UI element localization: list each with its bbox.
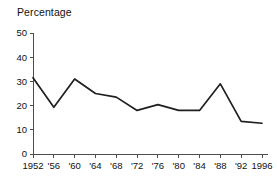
- x-tick-label: '80: [173, 160, 185, 171]
- y-tick-label: 20: [16, 100, 27, 111]
- y-tick-label: 10: [16, 124, 27, 135]
- x-tick-label: '84: [193, 160, 205, 171]
- x-tick-label: 1996: [251, 160, 272, 171]
- y-tick-label: 50: [16, 27, 27, 38]
- y-tick-label: 30: [16, 76, 27, 87]
- x-tick-label: '92: [235, 160, 247, 171]
- x-tick-label: '60: [68, 160, 80, 171]
- x-tick-label: '88: [214, 160, 226, 171]
- data-series-group: [33, 78, 262, 124]
- y-axis: 01020304050: [16, 27, 33, 159]
- x-tick-label: '76: [152, 160, 164, 171]
- y-tick-label: 40: [16, 52, 27, 63]
- x-tick-label: '72: [131, 160, 143, 171]
- x-tick-label: '56: [48, 160, 60, 171]
- x-tick-label: '64: [89, 160, 101, 171]
- x-axis: 1952'56'60'64'68'72'76'80'84'88'921996: [22, 154, 272, 171]
- x-tick-label: '68: [110, 160, 122, 171]
- line-chart-plot: 01020304050 1952'56'60'64'68'72'76'80'84…: [0, 0, 277, 184]
- x-tick-label: 1952: [22, 160, 43, 171]
- y-tick-label: 0: [22, 148, 27, 159]
- data-line-percentage: [33, 78, 262, 124]
- chart-container: Percentage 01020304050 1952'56'60'64'68'…: [0, 0, 277, 184]
